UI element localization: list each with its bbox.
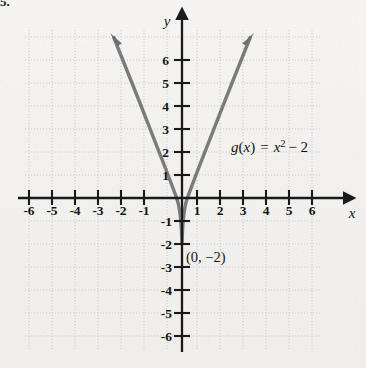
equation-equals-sign: =: [260, 139, 268, 155]
x-tick-label: 3: [240, 203, 247, 218]
y-tick-label: -6: [161, 329, 172, 344]
x-tick-label: 5: [286, 203, 293, 218]
y-tick-label: 2: [162, 145, 169, 160]
y-tick-label: -5: [161, 306, 172, 321]
figure-number-label: 5.: [0, 0, 10, 10]
y-tick-label: -1: [161, 214, 172, 229]
coordinate-plane-svg: -6 -5 -4 -3 -2 -1 1 2 3 4 5 6 6 5 4 3 2 …: [0, 0, 366, 368]
x-axis-label: x: [348, 205, 356, 221]
x-tick-label: -1: [138, 203, 149, 218]
x-tick-label: -2: [115, 203, 126, 218]
equation-exponent: 2: [280, 138, 285, 149]
y-tick-label: 6: [162, 53, 169, 68]
equation-minus-sign: −: [289, 139, 297, 155]
y-tick-label: 3: [162, 122, 169, 137]
y-tick-label: -2: [161, 237, 172, 252]
x-tick-label: 4: [263, 203, 270, 218]
x-tick-label: 6: [309, 203, 316, 218]
y-tick-label: 4: [162, 99, 169, 114]
x-tick-label: 1: [194, 203, 201, 218]
axis-lines: [18, 18, 345, 352]
y-tick-label: 5: [162, 76, 169, 91]
equation-close-paren: ): [250, 139, 255, 156]
x-tick-label: -4: [69, 203, 80, 218]
y-tick-label: -3: [161, 260, 172, 275]
x-tick-label: -6: [23, 203, 34, 218]
x-tick-label: -3: [92, 203, 103, 218]
x-tick-label: 2: [217, 203, 224, 218]
y-axis-label: y: [162, 13, 171, 29]
vertex-point-label: (0, −2): [186, 249, 226, 266]
x-tick-label: -5: [46, 203, 57, 218]
equation-annotation: g(x)=x2−2: [231, 138, 308, 157]
y-tick-label: 1: [162, 168, 169, 183]
y-tick-label: -4: [161, 283, 172, 298]
equation-constant: 2: [301, 139, 309, 155]
graph-figure: 5.: [0, 0, 366, 368]
